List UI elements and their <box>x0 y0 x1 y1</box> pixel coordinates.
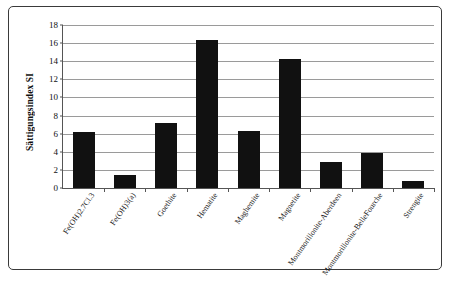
y-tick-label: 4 <box>54 147 59 157</box>
x-axis-label: Goethite <box>155 191 178 219</box>
x-axis-label: Magnetite <box>276 191 302 223</box>
bar <box>114 175 136 188</box>
y-tick-mark <box>60 25 64 26</box>
bar <box>320 162 342 188</box>
y-tick-label: 18 <box>49 20 58 30</box>
bar <box>279 59 301 188</box>
y-tick-label: 16 <box>49 38 58 48</box>
y-tick-mark <box>60 151 64 152</box>
x-axis-label: Maghemite <box>233 191 261 226</box>
y-tick-mark <box>60 79 64 80</box>
y-tick-label: 2 <box>54 165 59 175</box>
y-tick-mark <box>60 169 64 170</box>
y-tick-mark <box>60 61 64 62</box>
figure-frame: Sättigungsindex SI 024681012141618 Fe(OH… <box>8 6 442 270</box>
gridline <box>63 97 434 98</box>
y-tick-label: 6 <box>54 129 59 139</box>
gridline <box>63 61 434 62</box>
y-tick-mark <box>60 115 64 116</box>
gridline <box>63 116 434 117</box>
x-axis-label: Hematite <box>195 191 219 220</box>
x-tick-mark <box>434 188 435 192</box>
y-tick-label: 14 <box>49 56 58 66</box>
x-axis-labels: Fe(OH)2.7Cl.3Fe(OH)3(a)GoethiteHematiteM… <box>62 191 433 271</box>
gridline <box>63 43 434 44</box>
y-axis-title: Sättigungsindex SI <box>21 27 39 197</box>
y-tick-label: 10 <box>49 92 58 102</box>
bar <box>155 123 177 188</box>
gridline <box>63 25 434 26</box>
y-tick-mark <box>60 188 64 189</box>
y-tick-label: 8 <box>54 111 59 121</box>
x-axis-label: Fe(OH)2.7Cl.3 <box>61 191 96 236</box>
bar <box>361 153 383 188</box>
x-axis-label: Strengite <box>402 191 426 220</box>
y-tick-label: 12 <box>49 74 58 84</box>
y-axis-title-text: Sättigungsindex SI <box>25 73 35 151</box>
bar <box>196 40 218 189</box>
x-axis-label: Fe(OH)3(a) <box>108 191 137 227</box>
y-tick-mark <box>60 97 64 98</box>
y-tick-label: 0 <box>54 183 59 193</box>
bar <box>238 131 260 188</box>
gridline <box>63 79 434 80</box>
y-tick-mark <box>60 43 64 44</box>
y-tick-mark <box>60 133 64 134</box>
plot-area: 024681012141618 <box>62 25 434 189</box>
bar <box>402 181 424 188</box>
bar <box>73 132 95 188</box>
